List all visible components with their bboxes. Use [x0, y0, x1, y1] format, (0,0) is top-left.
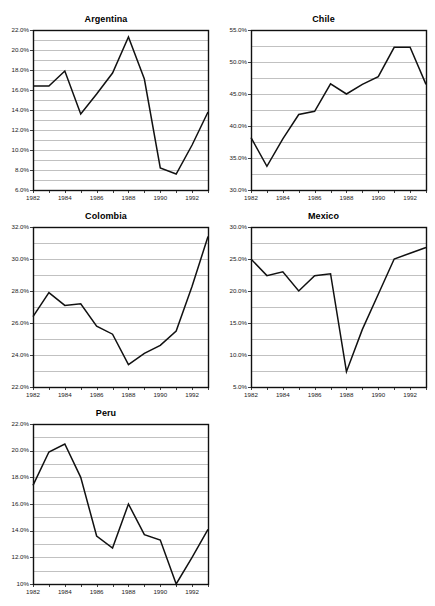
y-tick-label: 20.0% [11, 46, 29, 53]
x-tick-label: 1988 [122, 391, 136, 398]
chart-title-argentina: Argentina [0, 14, 212, 25]
gridlines-peru [33, 438, 208, 572]
x-tick-label: 1986 [308, 194, 322, 201]
chart-panel-peru: Peru 22.0%20.0%18.0%16.0%14.0%12.0%10%19… [0, 408, 212, 590]
y-axis-labels-peru: 22.0%20.0%18.0%16.0%14.0%12.0%10% [11, 420, 33, 587]
y-axis-labels-mexico: 30.0%25.0%20.0%15.0%10.0%5.0% [229, 223, 251, 390]
x-axis-labels-argentina: 198219841986198819901992 [26, 190, 208, 201]
y-tick-label: 50.0% [229, 58, 247, 65]
y-tick-label: 14.0% [11, 526, 29, 533]
gridlines-argentina [33, 41, 208, 181]
y-tick-label: 20.0% [11, 446, 29, 453]
y-tick-label: 18.0% [11, 66, 29, 73]
x-tick-label: 1990 [371, 391, 385, 398]
x-tick-label: 1992 [185, 194, 199, 201]
plot-area-mexico: 30.0%25.0%20.0%15.0%10.0%5.0%19821984198… [216, 223, 431, 401]
series-line-colombia [33, 237, 208, 365]
y-tick-label: 6.0% [15, 186, 30, 193]
x-tick-label: 1984 [58, 588, 72, 595]
series-line-mexico [251, 247, 426, 371]
y-tick-label: 18.0% [11, 473, 29, 480]
y-tick-label: 16.0% [11, 86, 29, 93]
chart-svg-chile: 55.0%50.0%45.0%40.0%35.0%30.0%1982198419… [216, 26, 432, 204]
x-tick-label: 1986 [308, 391, 322, 398]
y-tick-label: 30.0% [11, 255, 29, 262]
gridlines-colombia [33, 244, 208, 372]
y-tick-label: 20.0% [229, 287, 247, 294]
chart-svg-peru: 22.0%20.0%18.0%16.0%14.0%12.0%10%1982198… [0, 420, 214, 598]
x-tick-label: 1992 [185, 391, 199, 398]
y-tick-label: 10.0% [11, 146, 29, 153]
x-tick-label: 1982 [26, 391, 40, 398]
y-tick-label: 15.0% [229, 319, 247, 326]
chart-grid-page: Argentina 22.0%20.0%18.0%16.0%14.0%12.0%… [0, 0, 435, 606]
x-tick-label: 1992 [403, 391, 417, 398]
chart-svg-argentina: 22.0%20.0%18.0%16.0%14.0%12.0%10.0%8.0%6… [0, 26, 214, 204]
plot-area-colombia: 32.0%30.0%28.0%26.0%24.0%22.0%1982198419… [0, 223, 212, 401]
x-axis-labels-colombia: 198219841986198819901992 [26, 387, 208, 398]
y-tick-label: 25.0% [229, 255, 247, 262]
x-tick-label: 1990 [153, 194, 167, 201]
x-tick-label: 1984 [58, 391, 72, 398]
x-axis-labels-mexico: 198219841986198819901992 [244, 387, 426, 398]
x-tick-label: 1988 [340, 391, 354, 398]
series-line-argentina [33, 37, 208, 174]
plot-area-argentina: 22.0%20.0%18.0%16.0%14.0%12.0%10.0%8.0%6… [0, 26, 212, 204]
y-tick-label: 26.0% [11, 319, 29, 326]
x-tick-label: 1992 [185, 588, 199, 595]
cut-off-header-text [0, 0, 435, 7]
y-tick-label: 12.0% [11, 126, 29, 133]
y-tick-label: 22.0% [11, 26, 29, 33]
y-tick-label: 10% [17, 580, 30, 587]
x-tick-label: 1984 [276, 194, 290, 201]
chart-svg-colombia: 32.0%30.0%28.0%26.0%24.0%22.0%1982198419… [0, 223, 214, 401]
x-tick-label: 1990 [371, 194, 385, 201]
chart-panel-mexico: Mexico 30.0%25.0%20.0%15.0%10.0%5.0%1982… [216, 211, 431, 393]
y-tick-label: 10.0% [229, 351, 247, 358]
x-tick-label: 1984 [58, 194, 72, 201]
chart-panel-chile: Chile 55.0%50.0%45.0%40.0%35.0%30.0%1982… [216, 14, 431, 196]
series-line-chile [251, 47, 426, 166]
x-tick-label: 1982 [244, 391, 258, 398]
x-tick-label: 1988 [340, 194, 354, 201]
y-tick-label: 32.0% [11, 223, 29, 230]
y-tick-label: 45.0% [229, 90, 247, 97]
x-tick-label: 1988 [122, 588, 136, 595]
y-tick-label: 40.0% [229, 122, 247, 129]
y-tick-label: 28.0% [11, 287, 29, 294]
plot-area-chile: 55.0%50.0%45.0%40.0%35.0%30.0%1982198419… [216, 26, 431, 204]
series-line-peru [33, 444, 208, 584]
x-tick-label: 1986 [90, 588, 104, 595]
y-tick-label: 14.0% [11, 106, 29, 113]
y-tick-label: 8.0% [15, 166, 30, 173]
y-tick-label: 22.0% [11, 420, 29, 427]
x-tick-label: 1990 [153, 588, 167, 595]
y-tick-label: 22.0% [11, 383, 29, 390]
gridlines-mexico [251, 244, 426, 372]
y-tick-label: 12.0% [11, 553, 29, 560]
chart-panel-colombia: Colombia 32.0%30.0%28.0%26.0%24.0%22.0%1… [0, 211, 212, 393]
y-tick-label: 24.0% [11, 351, 29, 358]
y-tick-label: 30.0% [229, 223, 247, 230]
y-tick-label: 35.0% [229, 154, 247, 161]
x-tick-label: 1986 [90, 194, 104, 201]
chart-title-colombia: Colombia [0, 211, 212, 222]
y-tick-label: 30.0% [229, 186, 247, 193]
chart-title-mexico: Mexico [216, 211, 431, 222]
chart-panel-argentina: Argentina 22.0%20.0%18.0%16.0%14.0%12.0%… [0, 14, 212, 196]
y-tick-label: 55.0% [229, 26, 247, 33]
y-axis-labels-colombia: 32.0%30.0%28.0%26.0%24.0%22.0% [11, 223, 33, 390]
gridlines-chile [251, 47, 426, 175]
x-axis-labels-peru: 198219841986198819901992 [26, 584, 208, 595]
x-tick-label: 1982 [26, 588, 40, 595]
x-tick-label: 1992 [403, 194, 417, 201]
chart-title-peru: Peru [0, 408, 212, 419]
x-tick-label: 1986 [90, 391, 104, 398]
x-axis-labels-chile: 198219841986198819901992 [244, 190, 426, 201]
plot-area-peru: 22.0%20.0%18.0%16.0%14.0%12.0%10%1982198… [0, 420, 212, 598]
x-tick-label: 1982 [244, 194, 258, 201]
y-axis-labels-argentina: 22.0%20.0%18.0%16.0%14.0%12.0%10.0%8.0%6… [11, 26, 33, 193]
chart-svg-mexico: 30.0%25.0%20.0%15.0%10.0%5.0%19821984198… [216, 223, 432, 401]
x-tick-label: 1988 [122, 194, 136, 201]
y-tick-label: 5.0% [233, 383, 248, 390]
